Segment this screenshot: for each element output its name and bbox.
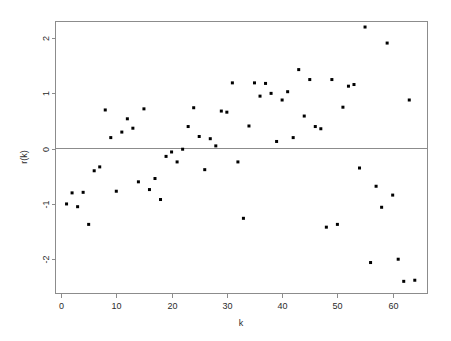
data-point	[231, 81, 234, 84]
y-tick-label: -1	[41, 200, 51, 208]
x-tick-label: 40	[277, 301, 287, 311]
data-point	[187, 125, 190, 128]
data-point	[225, 111, 228, 114]
x-tick-label: 50	[332, 301, 342, 311]
data-point	[165, 155, 168, 158]
data-point	[87, 223, 90, 226]
data-point	[319, 127, 322, 130]
data-point	[198, 135, 201, 138]
data-point	[408, 99, 411, 102]
data-point	[120, 131, 123, 134]
x-axis-title: k	[239, 318, 244, 328]
data-point	[253, 81, 256, 84]
data-point	[358, 167, 361, 170]
data-point	[115, 190, 118, 193]
data-point	[247, 124, 250, 127]
x-tick-label: 20	[167, 301, 177, 311]
data-point	[236, 160, 239, 163]
data-point	[126, 117, 129, 120]
data-point	[397, 258, 400, 261]
x-axis-ticks: 0102030405060	[59, 294, 399, 311]
plot-canvas: 210-1-2 0102030405060 k r(k)	[0, 0, 451, 341]
data-point	[281, 99, 284, 102]
data-point	[264, 82, 267, 85]
data-point	[209, 137, 212, 140]
data-point	[375, 185, 378, 188]
data-point	[286, 90, 289, 93]
y-axis-title: r(k)	[19, 150, 29, 164]
data-point	[131, 127, 134, 130]
data-point	[159, 198, 162, 201]
scatter-plot-figure: 210-1-2 0102030405060 k r(k)	[0, 0, 451, 341]
data-points-layer	[65, 26, 416, 283]
data-point	[270, 92, 273, 95]
data-point	[65, 202, 68, 205]
x-tick-label: 30	[222, 301, 232, 311]
data-point	[242, 217, 245, 220]
data-point	[308, 78, 311, 81]
data-point	[153, 177, 156, 180]
data-point	[98, 165, 101, 168]
data-point	[314, 125, 317, 128]
y-axis-ticks: 210-1-2	[41, 36, 56, 264]
y-tick-label: 1	[41, 91, 51, 96]
data-point	[341, 106, 344, 109]
data-point	[192, 106, 195, 109]
data-point	[330, 78, 333, 81]
plot-frame	[56, 22, 428, 294]
x-tick-label: 0	[59, 301, 64, 311]
x-tick-label: 10	[111, 301, 121, 311]
y-tick-label: -2	[41, 255, 51, 263]
data-point	[380, 206, 383, 209]
data-point	[93, 169, 96, 172]
data-point	[364, 26, 367, 29]
data-point	[203, 168, 206, 171]
data-point	[292, 136, 295, 139]
data-point	[391, 194, 394, 197]
data-point	[386, 42, 389, 45]
data-point	[142, 107, 145, 110]
data-point	[352, 83, 355, 86]
data-point	[325, 226, 328, 229]
data-point	[402, 280, 405, 283]
data-point	[214, 144, 217, 147]
data-point	[181, 148, 184, 151]
data-point	[347, 85, 350, 88]
data-point	[336, 223, 339, 226]
data-point	[104, 108, 107, 111]
data-point	[259, 95, 262, 98]
data-point	[148, 188, 151, 191]
data-point	[369, 261, 372, 264]
data-point	[176, 160, 179, 163]
data-point	[297, 68, 300, 71]
data-point	[303, 115, 306, 118]
data-point	[71, 191, 74, 194]
data-point	[82, 191, 85, 194]
data-point	[170, 150, 173, 153]
data-point	[275, 140, 278, 143]
y-tick-label: 0	[41, 147, 51, 152]
data-point	[109, 136, 112, 139]
data-point	[413, 279, 416, 282]
data-point	[76, 205, 79, 208]
data-point	[220, 110, 223, 113]
data-point	[137, 180, 140, 183]
x-tick-label: 60	[388, 301, 398, 311]
y-tick-label: 2	[41, 36, 51, 41]
